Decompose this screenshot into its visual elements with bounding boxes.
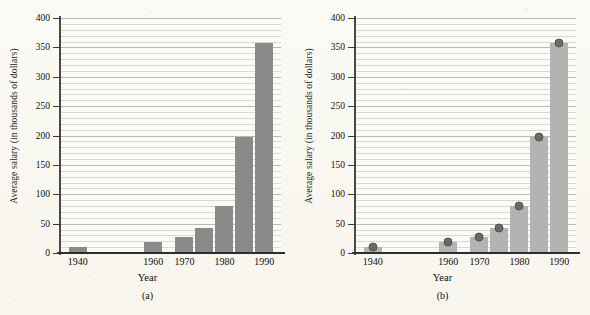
plot-area-a bbox=[59, 18, 281, 253]
scan-artifact bbox=[14, 300, 17, 301]
plot-area-b bbox=[354, 18, 576, 253]
y-tick-mark bbox=[53, 106, 61, 107]
y-tick-mark bbox=[53, 224, 61, 225]
gridline-minor bbox=[59, 59, 281, 60]
bar-1975 bbox=[195, 228, 213, 253]
gridline-minor bbox=[59, 94, 281, 95]
x-tick-label-1960: 1960 bbox=[438, 256, 458, 267]
gridline-minor bbox=[354, 36, 576, 37]
bar-1990 bbox=[255, 43, 273, 253]
x-tick-label-1940: 1940 bbox=[68, 256, 88, 267]
gridline-minor bbox=[59, 30, 281, 31]
gridline-minor bbox=[354, 24, 576, 25]
gridline-minor bbox=[59, 24, 281, 25]
y-tick-mark bbox=[53, 136, 61, 137]
y-tick-mark bbox=[348, 77, 356, 78]
gridline-major bbox=[354, 47, 576, 48]
gridline-minor bbox=[59, 124, 281, 125]
y-tick-label-400: 400 bbox=[295, 13, 345, 23]
data-marker-1970 bbox=[475, 233, 484, 242]
x-tick-label-1940: 1940 bbox=[363, 256, 383, 267]
y-tick-label-100: 100 bbox=[295, 189, 345, 199]
y-tick-mark bbox=[348, 47, 356, 48]
scan-artifact bbox=[525, 9, 528, 10]
data-marker-1990 bbox=[555, 39, 564, 48]
x-axis-line-b bbox=[352, 252, 580, 254]
y-tick-mark bbox=[53, 194, 61, 195]
gridline-minor bbox=[354, 118, 576, 119]
x-axis-line-a bbox=[57, 252, 285, 254]
scan-artifact bbox=[88, 276, 90, 277]
data-marker-1975 bbox=[495, 223, 504, 232]
gridline-major bbox=[59, 47, 281, 48]
y-tick-mark bbox=[53, 253, 61, 254]
scan-artifact bbox=[268, 296, 270, 297]
y-tick-label-50: 50 bbox=[295, 219, 345, 229]
y-tick-label-0: 0 bbox=[295, 248, 345, 258]
scan-artifact bbox=[330, 250, 332, 251]
gridline-major bbox=[59, 18, 281, 19]
y-tick-label-50: 50 bbox=[0, 219, 50, 229]
gridline-major bbox=[354, 18, 576, 19]
bar-1980 bbox=[215, 206, 233, 253]
scan-artifact bbox=[150, 12, 152, 13]
panel-caption-a: (a) bbox=[0, 290, 295, 301]
y-tick-mark bbox=[53, 165, 61, 166]
y-tick-label-150: 150 bbox=[295, 160, 345, 170]
gridline-minor bbox=[59, 83, 281, 84]
gridline-minor bbox=[59, 53, 281, 54]
y-tick-label-250: 250 bbox=[0, 101, 50, 111]
chart-panel-a: Average salary (in thousands of dollars)… bbox=[0, 0, 295, 315]
gridline-major bbox=[354, 77, 576, 78]
y-tick-label-100: 100 bbox=[0, 189, 50, 199]
gridline-minor bbox=[354, 100, 576, 101]
y-tick-mark bbox=[53, 77, 61, 78]
data-marker-1985 bbox=[535, 132, 544, 141]
gridline-minor bbox=[59, 130, 281, 131]
y-tick-mark bbox=[348, 194, 356, 195]
y-tick-label-350: 350 bbox=[295, 42, 345, 52]
x-tick-label-1960: 1960 bbox=[143, 256, 163, 267]
gridline-major bbox=[354, 106, 576, 107]
gridline-minor bbox=[354, 53, 576, 54]
bar-1970 bbox=[175, 237, 193, 253]
y-tick-mark bbox=[348, 165, 356, 166]
gridline-minor bbox=[59, 118, 281, 119]
gridline-minor bbox=[59, 112, 281, 113]
data-marker-1940 bbox=[368, 243, 377, 252]
gridline-minor bbox=[59, 100, 281, 101]
gridline-major bbox=[59, 77, 281, 78]
chart-panel-b: Average salary (in thousands of dollars)… bbox=[295, 0, 590, 315]
x-tick-label-1980: 1980 bbox=[214, 256, 234, 267]
y-tick-label-250: 250 bbox=[295, 101, 345, 111]
y-tick-mark bbox=[348, 106, 356, 107]
y-tick-mark bbox=[348, 18, 356, 19]
x-tick-label-1970: 1970 bbox=[174, 256, 194, 267]
y-tick-mark bbox=[348, 224, 356, 225]
x-axis-title-a: Year bbox=[0, 272, 295, 283]
gridline-minor bbox=[354, 130, 576, 131]
figure-page: Average salary (in thousands of dollars)… bbox=[0, 0, 590, 315]
y-tick-label-300: 300 bbox=[0, 72, 50, 82]
gridline-major bbox=[59, 106, 281, 107]
y-tick-label-150: 150 bbox=[0, 160, 50, 170]
bar-1985 bbox=[235, 137, 253, 253]
gridline-minor bbox=[59, 65, 281, 66]
gridline-minor bbox=[354, 65, 576, 66]
gridline-minor bbox=[354, 42, 576, 43]
y-tick-mark bbox=[348, 136, 356, 137]
data-marker-1960 bbox=[444, 238, 453, 247]
panel-container: Average salary (in thousands of dollars)… bbox=[0, 0, 590, 315]
bar-1985 bbox=[530, 137, 548, 253]
y-tick-label-200: 200 bbox=[0, 131, 50, 141]
scan-artifact bbox=[470, 286, 472, 287]
y-tick-mark bbox=[53, 18, 61, 19]
x-tick-label-1970: 1970 bbox=[469, 256, 489, 267]
y-tick-mark bbox=[348, 253, 356, 254]
y-tick-label-350: 350 bbox=[0, 42, 50, 52]
scan-artifact bbox=[404, 88, 406, 89]
x-tick-label-1980: 1980 bbox=[509, 256, 529, 267]
gridline-minor bbox=[59, 42, 281, 43]
y-tick-label-300: 300 bbox=[295, 72, 345, 82]
x-tick-label-1990: 1990 bbox=[549, 256, 569, 267]
